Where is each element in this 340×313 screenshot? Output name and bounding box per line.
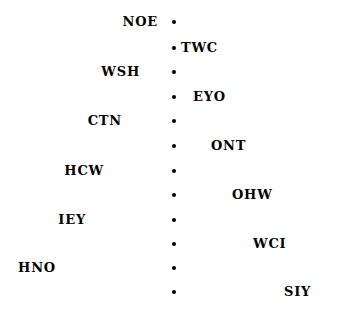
- bullet-point-icon: [172, 20, 176, 24]
- bullet-point-icon: [172, 169, 176, 173]
- node-label-eyo: EYO: [193, 90, 226, 103]
- bullet-point-icon: [172, 95, 176, 99]
- bullet-point-icon: [172, 144, 176, 148]
- node-label-siy: SIY: [284, 285, 311, 298]
- node-label-iey: IEY: [58, 213, 86, 226]
- bullet-point-icon: [172, 266, 176, 270]
- bullet-point-icon: [172, 46, 176, 50]
- node-label-wsh: WSH: [101, 65, 140, 78]
- node-label-ctn: CTN: [88, 114, 122, 127]
- node-label-wci: WCI: [253, 237, 286, 250]
- node-label-twc: TWC: [181, 41, 218, 54]
- node-label-ohw: OHW: [232, 188, 273, 201]
- bullet-point-icon: [172, 193, 176, 197]
- node-label-hno: HNO: [18, 261, 56, 274]
- node-label-hcw: HCW: [64, 164, 104, 177]
- node-label-noe: NOE: [122, 15, 158, 28]
- bullet-point-icon: [172, 70, 176, 74]
- bullet-point-icon: [172, 218, 176, 222]
- diagram-canvas: NOETWCWSHEYOCTNONTHCWOHWIEYWCIHNOSIY: [0, 0, 340, 313]
- bullet-point-icon: [172, 242, 176, 246]
- bullet-point-icon: [172, 119, 176, 123]
- node-label-ont: ONT: [211, 139, 246, 152]
- bullet-point-icon: [172, 290, 176, 294]
